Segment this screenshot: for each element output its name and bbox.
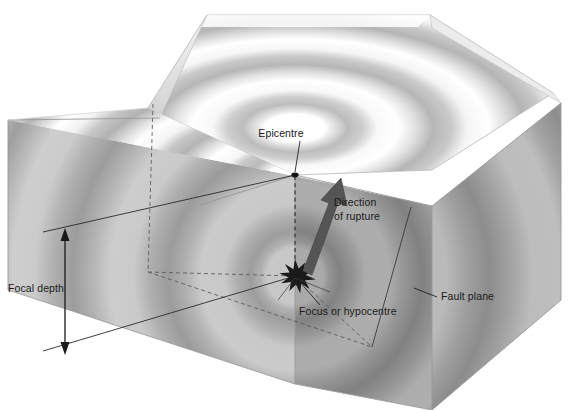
direction-of-rupture-label-line1: Direction bbox=[334, 196, 376, 208]
upthrown-ridge-highlight bbox=[200, 15, 430, 27]
focal-depth-arrowhead-down bbox=[61, 342, 70, 355]
epicentre-point bbox=[291, 173, 298, 178]
fault-plane-label: Fault plane bbox=[441, 290, 494, 302]
direction-of-rupture-label-line2: of rupture bbox=[334, 210, 380, 222]
earth-block bbox=[8, 15, 561, 410]
earthquake-block-diagram: Epicentre Direction of rupture Focus or … bbox=[0, 0, 588, 410]
epicentre-label: Epicentre bbox=[258, 127, 303, 139]
focal-depth-label: Focal depth bbox=[8, 282, 64, 294]
diagram-canvas: Epicentre Direction of rupture Focus or … bbox=[0, 0, 588, 410]
focus-or-hypocentre-label: Focus or hypocentre bbox=[299, 305, 397, 317]
